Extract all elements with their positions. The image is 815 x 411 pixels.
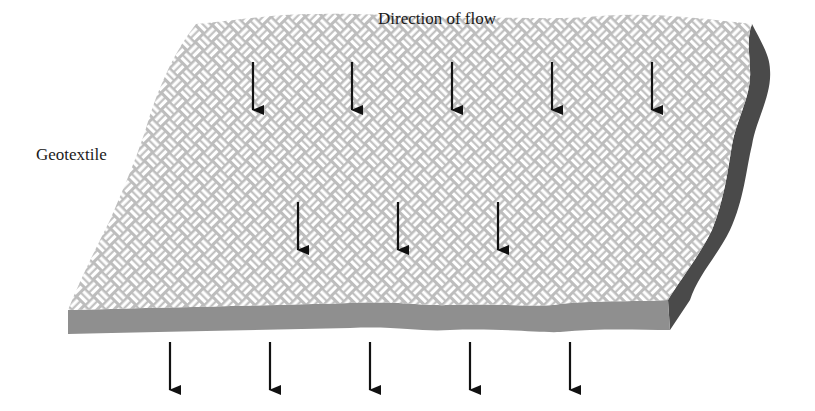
direction-of-flow-label: Direction of flow <box>378 10 496 27</box>
geotextile-label: Geotextile <box>36 146 107 163</box>
geotextile-diagram <box>0 0 815 411</box>
sheet-top-surface <box>68 14 752 310</box>
flow-arrows-bottom-row <box>170 342 570 390</box>
